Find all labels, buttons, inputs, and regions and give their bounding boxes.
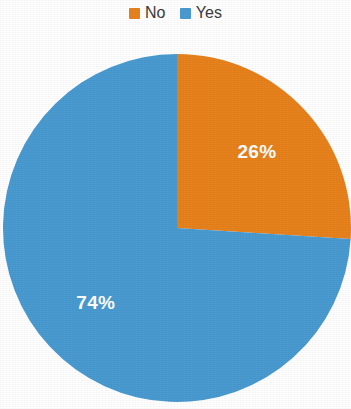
pie-plot-area: 26% 74% [0,0,351,409]
pie-svg: 26% 74% [0,0,351,409]
pie-chart-figure: No Yes 26% 74% [0,0,351,409]
pie-slices-group [3,54,351,402]
pie-slice-label-no: 26% [237,141,276,162]
pie-slice-label-yes: 74% [76,292,115,313]
